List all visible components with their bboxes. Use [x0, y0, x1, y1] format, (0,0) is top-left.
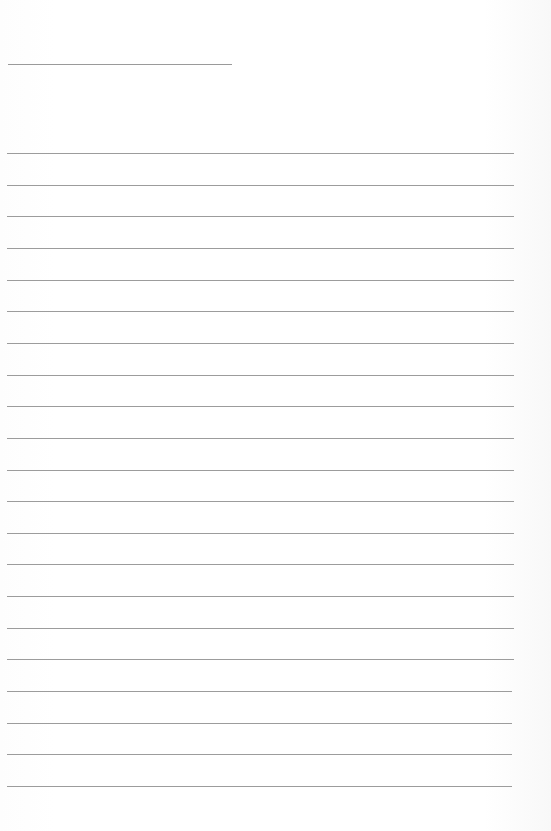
ruled-line — [7, 343, 514, 344]
ruled-line — [7, 596, 514, 597]
ruled-line — [7, 280, 514, 281]
ruled-line — [7, 375, 514, 376]
ruled-line — [7, 311, 514, 312]
ruled-line — [7, 501, 514, 502]
ruled-line — [7, 786, 512, 787]
ruled-line — [7, 754, 512, 755]
ruled-line — [7, 533, 514, 534]
ruled-line — [7, 470, 514, 471]
title-underline — [8, 64, 232, 65]
ruled-line — [7, 691, 512, 692]
ruled-line — [7, 153, 514, 154]
ruled-line — [7, 406, 514, 407]
ruled-line — [7, 564, 514, 565]
ruled-line — [7, 659, 514, 660]
ruled-line — [7, 248, 514, 249]
lined-page — [0, 0, 551, 831]
ruled-line — [7, 216, 514, 217]
ruled-line — [7, 185, 514, 186]
title-field[interactable] — [8, 44, 232, 62]
ruled-line — [7, 723, 512, 724]
ruled-line — [7, 628, 514, 629]
ruled-line — [7, 438, 514, 439]
